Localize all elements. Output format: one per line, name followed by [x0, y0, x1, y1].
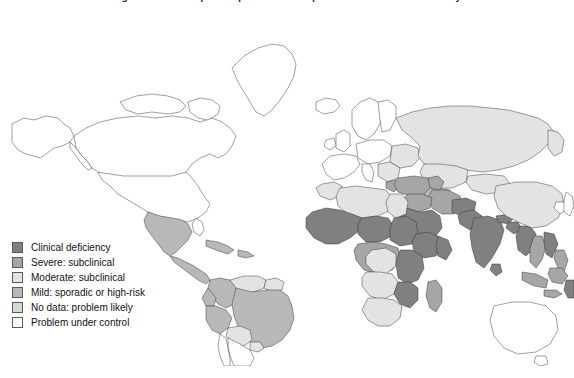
region-kamchatka — [548, 130, 564, 156]
region-oceania — [490, 302, 558, 366]
region-ireland — [324, 138, 336, 150]
legend-item-moderate-subclinical[interactable]: Moderate: subclinical — [12, 270, 145, 285]
legend-label-mild-sporadic-high-risk: Mild: sporadic or high-risk — [31, 287, 145, 298]
region-southern-africa — [362, 298, 402, 326]
region-egypt — [386, 194, 408, 218]
region-italy — [362, 164, 374, 182]
figure-title: Figure 1 Global map of the public health… — [0, 0, 574, 2]
region-greenland — [232, 44, 296, 116]
region-canadian-arctic — [120, 94, 186, 114]
legend-item-clinical-deficiency[interactable]: Clinical deficiency — [12, 240, 145, 255]
region-iceland — [316, 98, 340, 114]
region-france-iberia — [322, 154, 360, 180]
legend-label-no-data-problem-likely: No data: problem likely — [31, 302, 133, 313]
legend-label-moderate-subclinical: Moderate: subclinical — [31, 272, 125, 283]
legend-swatch-problem-under-control — [12, 317, 23, 328]
region-indonesia-sumatra — [522, 272, 548, 288]
region-japan — [564, 192, 574, 216]
region-central-europe — [356, 140, 392, 164]
region-sri-lanka — [490, 264, 502, 276]
region-cuba — [206, 240, 234, 254]
region-baffin-island — [188, 98, 220, 120]
legend-swatch-mild-sporadic-high-risk — [12, 287, 23, 298]
region-madagascar — [426, 280, 442, 312]
region-angola-zambia — [362, 272, 398, 300]
region-thailand — [530, 236, 546, 268]
region-south-america — [202, 276, 294, 366]
region-indonesia-java — [544, 290, 562, 298]
region-somalia — [436, 236, 452, 260]
region-central-america — [170, 256, 210, 284]
legend-item-no-data-problem-likely[interactable]: No data: problem likely — [12, 300, 145, 315]
legend-swatch-no-data-problem-likely — [12, 302, 23, 313]
region-tasmania — [534, 356, 548, 366]
region-russia — [396, 106, 554, 172]
legend-item-mild-sporadic-high-risk[interactable]: Mild: sporadic or high-risk — [12, 285, 145, 300]
region-eastern-europe — [390, 144, 420, 168]
region-east-africa — [396, 250, 424, 284]
region-british-isles — [336, 130, 350, 152]
region-alaska — [12, 116, 74, 158]
legend-label-clinical-deficiency: Clinical deficiency — [31, 242, 110, 253]
region-asia — [458, 182, 574, 298]
region-florida — [192, 218, 204, 236]
region-scandinavia — [352, 98, 382, 140]
region-canada — [74, 116, 236, 180]
legend-item-severe-subclinical[interactable]: Severe: subclinical — [12, 255, 145, 270]
map-legend: Clinical deficiency Severe: subclinical … — [7, 237, 151, 334]
legend-label-problem-under-control: Problem under control — [31, 317, 129, 328]
legend-item-problem-under-control[interactable]: Problem under control — [12, 315, 145, 330]
legend-swatch-moderate-subclinical — [12, 272, 23, 283]
region-borneo — [548, 268, 568, 284]
legend-swatch-clinical-deficiency — [12, 242, 23, 253]
region-hispaniola — [238, 250, 254, 258]
region-papua-new-guinea — [564, 280, 574, 298]
region-sahel — [358, 216, 394, 242]
region-finland — [378, 100, 396, 132]
region-india — [470, 216, 504, 268]
legend-swatch-severe-subclinical — [12, 257, 23, 268]
region-australia — [490, 302, 558, 354]
figure-container: Figure 1 Global map of the public health… — [0, 0, 574, 378]
legend-label-severe-subclinical: Severe: subclinical — [31, 257, 114, 268]
